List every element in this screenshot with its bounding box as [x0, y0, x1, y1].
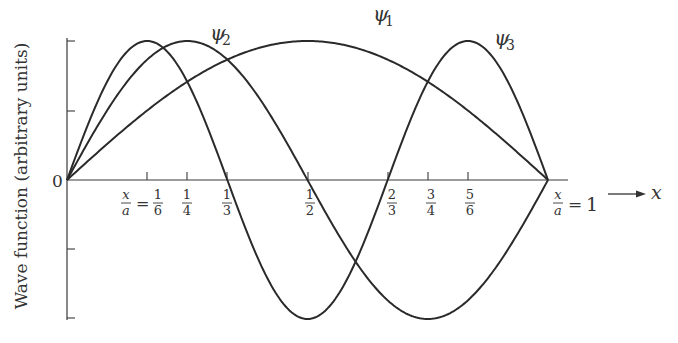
svg-text:3: 3 [388, 203, 396, 218]
origin-label: 0 [52, 171, 63, 191]
svg-text:2: 2 [222, 32, 231, 48]
wave-function-chart: Wave function (arbitrary units) 0 ψ 2 ψ … [0, 0, 678, 343]
svg-text:a: a [122, 203, 130, 218]
tick-label-1-4: 1 4 [182, 187, 192, 218]
svg-text:1: 1 [154, 187, 162, 202]
psi1-curve [67, 41, 548, 180]
svg-text:1: 1 [183, 187, 191, 202]
psi1-label: ψ 1 [373, 2, 394, 29]
svg-text:2: 2 [388, 187, 396, 202]
svg-text:3: 3 [506, 37, 515, 53]
svg-text:5: 5 [466, 187, 474, 202]
y-axis-label: Wave function (arbitrary units) [11, 43, 31, 310]
svg-text:3: 3 [223, 203, 231, 218]
svg-text:6: 6 [466, 203, 474, 218]
tick-label-2-3: 2 3 [387, 187, 397, 218]
svg-text:4: 4 [183, 203, 191, 218]
svg-text:x: x [122, 187, 130, 202]
psi3-label: ψ 3 [494, 26, 515, 53]
svg-text:4: 4 [427, 203, 435, 218]
svg-text:1: 1 [586, 193, 598, 215]
svg-text:6: 6 [154, 203, 162, 218]
x-direction-arrow-icon [608, 191, 646, 198]
tick-label-x-over-a-eq-1-6: x a = 1 6 [121, 187, 163, 218]
tick-label-1-3: 1 3 [222, 187, 232, 218]
psi2-label: ψ 2 [210, 21, 231, 48]
tick-label-3-4: 3 4 [426, 187, 436, 218]
x-arrow-label: x [651, 181, 662, 203]
svg-text:=: = [568, 194, 582, 214]
svg-text:=: = [136, 194, 149, 213]
tick-label-x-over-a-eq-1: x a = 1 [553, 187, 598, 218]
svg-text:1: 1 [385, 13, 394, 29]
svg-text:3: 3 [427, 187, 435, 202]
tick-label-1-2: 1 2 [305, 187, 315, 218]
svg-text:1: 1 [306, 187, 314, 202]
tick-label-5-6: 5 6 [465, 187, 475, 218]
svg-text:1: 1 [223, 187, 231, 202]
svg-text:2: 2 [306, 203, 314, 218]
svg-text:a: a [554, 203, 562, 218]
svg-text:x: x [554, 187, 562, 202]
